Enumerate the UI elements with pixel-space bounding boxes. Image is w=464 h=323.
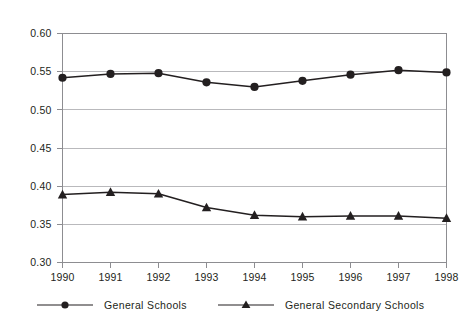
data-point-marker	[58, 74, 66, 82]
y-axis-tick-label: 0.30	[30, 256, 51, 268]
y-axis-tick-label: 0.40	[30, 180, 51, 192]
data-point-marker	[346, 71, 354, 79]
x-axis-tick-label: 1993	[194, 271, 218, 283]
y-axis-tick-label: 0.55	[30, 65, 51, 77]
x-axis-tick-label: 1991	[98, 271, 122, 283]
data-point-marker	[106, 70, 114, 78]
legend-label-general-secondary-schools: General Secondary Schools	[285, 299, 425, 311]
data-point-marker	[394, 66, 402, 74]
data-point-marker	[442, 68, 450, 76]
x-axis-tick-label: 1997	[386, 271, 410, 283]
x-axis-tick-label: 1992	[146, 271, 170, 283]
legend-item-general-secondary-schools[interactable]: General Secondary Schools	[217, 299, 425, 311]
data-point-marker	[250, 83, 258, 91]
y-axis-tick-label: 0.50	[30, 104, 51, 116]
plot-area: 0.600.550.500.450.400.350.30199019911992…	[0, 0, 464, 283]
data-point-marker	[154, 69, 162, 77]
data-point-marker	[298, 77, 306, 85]
triangle-marker-icon	[217, 299, 275, 311]
circle-marker-icon	[36, 299, 94, 311]
x-axis-tick-label: 1996	[338, 271, 362, 283]
legend-label-general-schools: General Schools	[104, 299, 187, 311]
y-axis-tick-label: 0.35	[30, 218, 51, 230]
legend-item-general-schools[interactable]: General Schools	[36, 299, 187, 311]
x-axis-tick-label: 1990	[50, 271, 74, 283]
chart-figure: 0.600.550.500.450.400.350.30199019911992…	[0, 0, 464, 323]
y-axis-tick-label: 0.45	[30, 142, 51, 154]
chart-legend: General Schools General Secondary School…	[0, 292, 464, 318]
x-axis-tick-label: 1998	[434, 271, 458, 283]
y-axis-tick-label: 0.60	[30, 27, 51, 39]
x-axis-tick-label: 1995	[290, 271, 314, 283]
line-chart-svg: 0.600.550.500.450.400.350.30199019911992…	[0, 0, 464, 283]
data-point-marker	[202, 78, 210, 86]
x-axis-tick-label: 1994	[242, 271, 266, 283]
